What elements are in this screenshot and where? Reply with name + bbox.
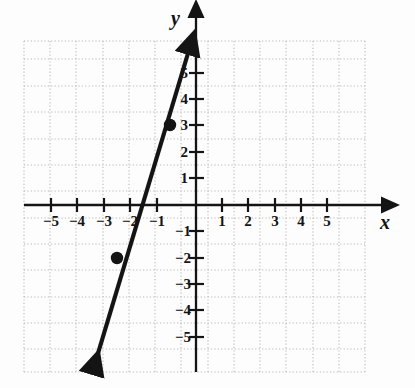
data-point-marker (111, 252, 123, 264)
graph-figure: −5 −4 −3 −2 −1 1 2 3 4 5 5 4 3 2 1 −1 −2… (0, 0, 415, 388)
x-tick-label-neg-5: −5 (43, 214, 59, 229)
x-tick-label-neg-1: −1 (149, 214, 165, 229)
x-tick-label-1: 1 (218, 214, 226, 229)
x-tick-label-neg-4: −4 (69, 214, 85, 229)
x-axis-name-label: x (380, 212, 390, 232)
x-tick-label-3: 3 (271, 214, 279, 229)
x-tick-label-2: 2 (244, 214, 252, 229)
y-tick-label-neg-3: −3 (175, 277, 191, 292)
plotted-line (93, 50, 189, 370)
x-tick-label-4: 4 (297, 214, 305, 229)
y-tick-label-1: 1 (181, 171, 189, 186)
data-point-marker (164, 119, 176, 131)
y-tick-label-3: 3 (181, 118, 189, 133)
grid-lines (24, 41, 365, 372)
y-tick-label-neg-1: −1 (175, 224, 191, 239)
x-tick-label-neg-2: −2 (122, 214, 138, 229)
y-tick-label-neg-5: −5 (175, 330, 191, 345)
y-axis-name-label: y (171, 8, 180, 28)
y-tick-label-5: 5 (181, 66, 189, 81)
coordinate-plane-svg (0, 0, 415, 388)
y-tick-label-neg-2: −2 (175, 251, 191, 266)
x-tick-label-5: 5 (323, 214, 331, 229)
x-tick-label-neg-3: −3 (96, 214, 112, 229)
y-tick-label-neg-4: −4 (175, 303, 191, 318)
y-tick-label-4: 4 (181, 92, 189, 107)
y-tick-label-2: 2 (181, 145, 189, 160)
